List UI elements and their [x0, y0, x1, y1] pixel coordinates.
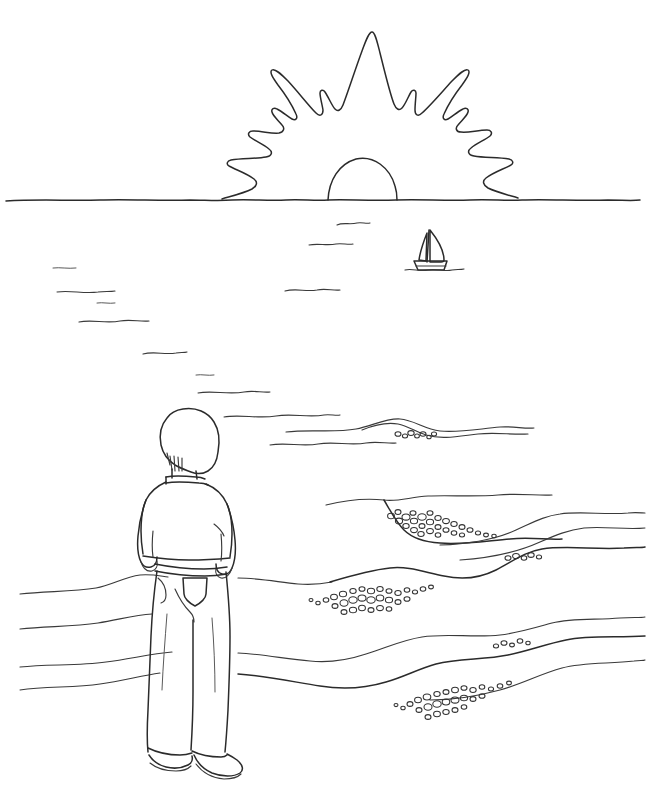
water-dash [53, 268, 76, 269]
water-dash [97, 303, 115, 304]
paper-background [0, 0, 646, 795]
water-dash [196, 375, 214, 376]
neck [196, 471, 197, 479]
artwork-canvas: Person Watching Sunset Over the Sea [0, 0, 646, 795]
beach-sunset-line-drawing [0, 0, 646, 795]
